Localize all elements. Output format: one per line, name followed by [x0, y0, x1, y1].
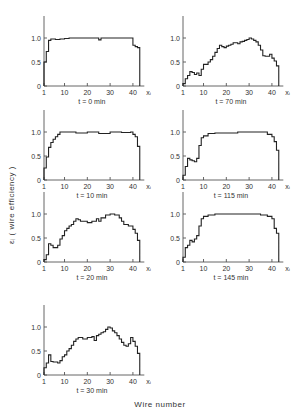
- x-axis-end-label: xᵢ: [146, 378, 151, 385]
- efficiency-step-line: [44, 38, 140, 86]
- x-axis-end-label: xᵢ: [146, 183, 151, 190]
- efficiency-step-line: [44, 132, 140, 180]
- x-tick-label: 1: [181, 89, 185, 96]
- x-axis-end-label: xᵢ: [146, 89, 151, 96]
- panel-t-145-min: 00.51.0110203040xᵢt = 145 min: [170, 192, 290, 281]
- x-tick-label: 40: [268, 265, 276, 272]
- panel-t-70-min: 00.51.0110203040xᵢt = 70 min: [170, 16, 290, 105]
- x-axis-end-label: xᵢ: [285, 89, 290, 96]
- y-tick-label: 0.5: [170, 59, 180, 66]
- panel-caption: t = 0 min: [78, 98, 105, 105]
- panel-t-10-min: 00.51.0110203040xᵢt = 10 min: [31, 110, 151, 199]
- y-tick-label: 1.0: [170, 129, 180, 136]
- y-tick-label: 1.0: [170, 35, 180, 42]
- panel-caption: t = 115 min: [214, 192, 248, 199]
- efficiency-step-line: [183, 38, 279, 86]
- x-tick-label: 10: [61, 89, 69, 96]
- wire-efficiency-figure: 00.51.0110203040xᵢt = 0 min00.51.0110203…: [0, 0, 302, 417]
- y-tick-label: 0.5: [31, 59, 41, 66]
- x-tick-label: 30: [245, 89, 253, 96]
- y-tick-label: 1.0: [170, 211, 180, 218]
- y-tick-label: 1.0: [31, 211, 41, 218]
- x-tick-label: 20: [83, 89, 91, 96]
- panel-t-20-min: 00.51.0110203040xᵢt = 20 min: [31, 192, 151, 281]
- panel-t-30-min: 00.51.0110203040xᵢt = 30 min: [31, 305, 151, 394]
- y-tick-label: 0: [176, 259, 180, 266]
- x-tick-label: 20: [83, 183, 91, 190]
- x-tick-label: 1: [42, 89, 46, 96]
- x-tick-label: 10: [200, 265, 208, 272]
- x-tick-label: 30: [245, 183, 253, 190]
- x-tick-label: 30: [106, 378, 114, 385]
- x-axis-end-label: xᵢ: [146, 265, 151, 272]
- efficiency-step-line: [44, 327, 140, 375]
- y-axis-title: εᵢ ( wire efficiency ): [7, 166, 16, 244]
- x-tick-label: 10: [61, 265, 69, 272]
- y-tick-label: 0: [37, 372, 41, 379]
- x-tick-label: 40: [268, 89, 276, 96]
- y-tick-label: 1.0: [31, 35, 41, 42]
- panel-caption: t = 30 min: [76, 387, 107, 394]
- x-axis-end-label: xᵢ: [285, 265, 290, 272]
- x-tick-label: 1: [181, 265, 185, 272]
- y-tick-label: 0.5: [170, 153, 180, 160]
- x-tick-label: 1: [42, 378, 46, 385]
- x-tick-label: 10: [200, 89, 208, 96]
- y-tick-label: 0: [37, 177, 41, 184]
- x-tick-label: 30: [106, 183, 114, 190]
- efficiency-step-line: [44, 214, 140, 262]
- y-tick-label: 0.5: [31, 235, 41, 242]
- efficiency-step-line: [183, 132, 279, 180]
- panel-caption: t = 145 min: [213, 274, 248, 281]
- x-tick-label: 30: [245, 265, 253, 272]
- y-tick-label: 1.0: [31, 324, 41, 331]
- x-tick-label: 40: [129, 183, 137, 190]
- panel-caption: t = 70 min: [215, 98, 246, 105]
- panel-caption: t = 20 min: [76, 274, 107, 281]
- x-tick-label: 1: [42, 265, 46, 272]
- panel-t-115-min: 00.51.0110203040xᵢt = 115 min: [170, 110, 290, 199]
- panel-t-0-min: 00.51.0110203040xᵢt = 0 min: [31, 16, 151, 105]
- x-tick-label: 10: [61, 378, 69, 385]
- x-tick-label: 20: [222, 89, 230, 96]
- x-tick-label: 20: [222, 265, 230, 272]
- panel-caption: t = 10 min: [76, 192, 107, 199]
- x-tick-label: 10: [200, 183, 208, 190]
- y-tick-label: 0: [176, 83, 180, 90]
- x-tick-label: 1: [42, 183, 46, 190]
- x-tick-label: 30: [106, 89, 114, 96]
- x-tick-label: 40: [129, 378, 137, 385]
- x-tick-label: 1: [181, 183, 185, 190]
- x-tick-label: 10: [61, 183, 69, 190]
- x-tick-label: 40: [129, 265, 137, 272]
- y-tick-label: 0: [37, 259, 41, 266]
- y-tick-label: 0: [37, 83, 41, 90]
- y-tick-label: 0: [176, 177, 180, 184]
- x-tick-label: 40: [268, 183, 276, 190]
- x-axis-title: Wire number: [134, 400, 185, 409]
- y-tick-label: 0.5: [31, 348, 41, 355]
- y-tick-label: 0.5: [170, 235, 180, 242]
- efficiency-step-line: [183, 214, 279, 262]
- x-tick-label: 40: [129, 89, 137, 96]
- x-tick-label: 30: [106, 265, 114, 272]
- x-tick-label: 20: [222, 183, 230, 190]
- x-tick-label: 20: [83, 378, 91, 385]
- y-tick-label: 1.0: [31, 129, 41, 136]
- x-tick-label: 20: [83, 265, 91, 272]
- y-tick-label: 0.5: [31, 153, 41, 160]
- x-axis-end-label: xᵢ: [285, 183, 290, 190]
